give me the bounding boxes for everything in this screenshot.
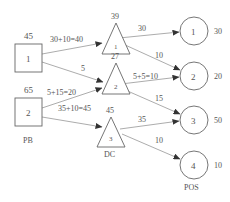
edge-label-pb2-dc2: 5+15=20	[47, 88, 76, 97]
pos-group-label: POS	[184, 183, 199, 192]
edge-pb1-dc2	[42, 62, 103, 82]
edge-dc2-pos3	[123, 89, 180, 114]
dc1-value: 39	[111, 12, 119, 21]
pb-group-label: PB	[23, 136, 33, 145]
edge-dc1-pos1	[119, 32, 179, 38]
pb-group: 45 1 65 2 PB	[15, 31, 42, 145]
pos2-id: 2	[191, 72, 196, 82]
edge-dc1-pos2	[123, 44, 180, 70]
edge-label-dc2-pos3: 15	[155, 94, 163, 103]
pb2-value: 65	[24, 85, 34, 95]
edge-label-pb1-dc1: 30+10=40	[50, 35, 83, 44]
edge-label-dc1-pos1: 30	[138, 24, 146, 33]
pos4-id: 4	[191, 161, 196, 171]
pos1-id: 1	[191, 27, 196, 37]
edge-labels: 30+10=40 5 5+15=20 35+10=45 30 10 5+5=10…	[47, 24, 163, 145]
edge-pb2-dc3	[42, 117, 102, 127]
edge-pb1-dc1	[42, 43, 102, 54]
edge-label-dc2-pos2: 5+5=10	[133, 72, 158, 81]
pos3-value: 50	[214, 116, 222, 125]
dc1-id: 1	[114, 43, 118, 51]
edge-dc3-pos3	[120, 121, 179, 129]
dc2-id: 2	[114, 83, 118, 91]
pos3-id: 3	[191, 116, 196, 126]
pos4-value: 10	[214, 161, 222, 170]
edge-label-pb1-dc2: 5	[81, 64, 85, 73]
edge-label-dc3-pos4: 10	[155, 136, 163, 145]
dc-group-label: DC	[104, 150, 115, 159]
pb1-value: 45	[24, 31, 34, 41]
pos-group: 1 30 2 20 3 50 4 10 POS	[180, 17, 222, 192]
edge-label-pb2-dc3: 35+10=45	[58, 104, 91, 113]
pb1-id: 1	[26, 54, 31, 64]
edge-label-dc3-pos3: 35	[138, 115, 146, 124]
dc3-value: 45	[106, 106, 114, 115]
edge-dc3-pos4	[122, 134, 180, 159]
edge-label-dc1-pos2: 10	[155, 51, 163, 60]
pb2-id: 2	[26, 108, 31, 118]
dc-group: 39 1 27 2 45 3 DC	[97, 12, 130, 159]
edges-pb-dc	[42, 43, 103, 127]
dc2-value: 27	[111, 52, 119, 61]
pos1-value: 30	[214, 27, 222, 36]
supply-network-diagram: 30+10=40 5 5+15=20 35+10=45 30 10 5+5=10…	[0, 0, 230, 202]
dc3-id: 3	[109, 135, 113, 143]
pos2-value: 20	[214, 72, 222, 81]
